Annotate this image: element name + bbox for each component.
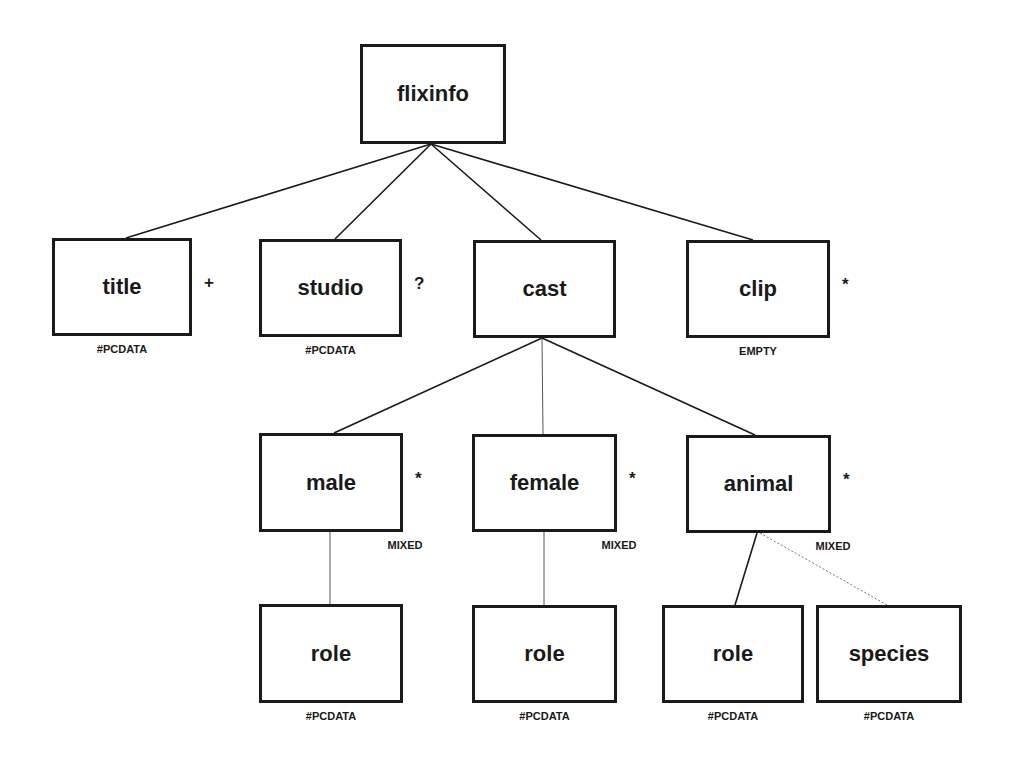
cardinality-marker: * [843,470,850,490]
node-flixinfo: flixinfo [360,44,506,144]
cardinality-marker: ? [414,274,424,294]
node-label: role [713,641,753,667]
node-label: cast [522,276,566,302]
cardinality-marker: + [204,273,214,293]
node-label: species [849,641,930,667]
node-label: male [306,470,356,496]
node-label: role [311,641,351,667]
content-type-label: #PCDATA [281,344,381,356]
content-type-label: MIXED [365,539,445,551]
node-studio: studio [259,239,402,337]
node-label: flixinfo [397,81,469,107]
node-label: title [102,274,141,300]
node-male: male [259,433,403,532]
node-role_male: role [259,604,403,703]
node-female: female [472,434,617,532]
content-type-label: MIXED [793,540,873,552]
edge-cast-female [542,338,543,434]
node-label: animal [724,471,794,497]
node-animal: animal [686,435,831,533]
edge-flixinfo-title [126,144,431,238]
content-type-label: #PCDATA [495,710,595,722]
edge-flixinfo-cast [431,144,541,240]
content-type-label: #PCDATA [72,343,172,355]
node-role_female: role [472,605,617,703]
node-label: female [510,470,580,496]
node-label: clip [739,276,777,302]
edge-flixinfo-clip [431,144,753,240]
cardinality-marker: * [629,469,636,489]
edge-animal-role_animal [735,533,757,605]
cardinality-marker: * [415,469,422,489]
dtd-tree-diagram: flixinfotitle+#PCDATAstudio?#PCDATAcastc… [0,0,1013,771]
content-type-label: EMPTY [708,345,808,357]
content-type-label: #PCDATA [839,710,939,722]
content-type-label: #PCDATA [683,710,783,722]
node-clip: clip [686,240,830,338]
node-cast: cast [473,240,616,338]
content-type-label: #PCDATA [281,710,381,722]
node-title: title [52,238,192,336]
node-species: species [816,605,962,703]
content-type-label: MIXED [579,539,659,551]
node-label: role [524,641,564,667]
cardinality-marker: * [842,275,849,295]
node-label: studio [298,275,364,301]
node-role_animal: role [662,605,804,703]
